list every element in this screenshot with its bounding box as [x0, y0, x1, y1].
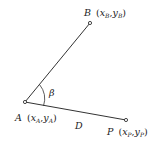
- label-point-p: P (xP,yP): [106, 126, 148, 138]
- segment-ab: [25, 23, 90, 102]
- angle-arc-beta: [40, 85, 45, 107]
- label-b-name: B: [83, 7, 91, 18]
- label-point-b: B (xB,yB): [83, 7, 126, 19]
- label-angle-beta: β: [48, 87, 55, 98]
- label-a-name: A: [14, 112, 22, 123]
- point-a-marker: [23, 100, 26, 103]
- label-distance-d: D: [74, 120, 83, 131]
- point-b-marker: [88, 21, 91, 24]
- label-point-a: A (xA,yA): [14, 112, 57, 124]
- label-p-name: P: [106, 126, 114, 137]
- geometry-diagram: B (xB,yB) β A (xA,yA) D P (xP,yP): [0, 0, 152, 143]
- point-p-marker: [124, 118, 127, 121]
